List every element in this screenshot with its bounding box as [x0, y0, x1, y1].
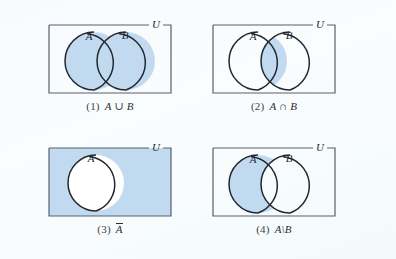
caption-intersection: (2)A ∩ B [210, 100, 338, 112]
caption-text: A ∩ B [269, 100, 297, 112]
set-b-label: B [122, 29, 129, 41]
set-a-label: A [85, 30, 93, 42]
caption-index: (1) [86, 100, 99, 112]
caption-index: (3) [97, 223, 110, 235]
universe-label: U [152, 18, 161, 30]
caption-text: A\B [275, 223, 292, 235]
venn-diagram-complement: U A [46, 137, 174, 221]
venn-panel-intersection: U A B (2)A ∩ B [210, 14, 338, 114]
caption-difference: (4)A\B [210, 223, 338, 235]
universe-label: U [316, 18, 325, 30]
panel-grid: U A B (1)A ∪ B [0, 0, 396, 259]
caption-union: (1)A ∪ B [46, 100, 174, 113]
set-a-label: A [87, 152, 95, 164]
caption-index: (2) [251, 100, 264, 112]
venn-panel-difference: U A B (4)A\B [210, 137, 338, 237]
venn-diagram-union: U A B [46, 14, 174, 98]
set-a-label: A [249, 153, 257, 165]
caption-complement: (3)A [46, 223, 174, 236]
venn-diagram-difference: U A B [210, 137, 338, 221]
set-a-label: A [249, 30, 257, 42]
venn-panel-complement: U A (3)A [46, 137, 174, 237]
venn-panel-union: U A B (1)A ∪ B [46, 14, 174, 114]
figure-sheet: U A B (1)A ∪ B [0, 0, 396, 259]
universe-label: U [152, 141, 161, 153]
caption-text: A ∪ B [105, 100, 134, 112]
set-b-label: B [286, 152, 293, 164]
set-b-label: B [286, 29, 293, 41]
caption-index: (4) [256, 223, 269, 235]
venn-diagram-intersection: U A B [210, 14, 338, 98]
shaded-region-union [65, 32, 155, 90]
caption-text: A [116, 223, 123, 236]
